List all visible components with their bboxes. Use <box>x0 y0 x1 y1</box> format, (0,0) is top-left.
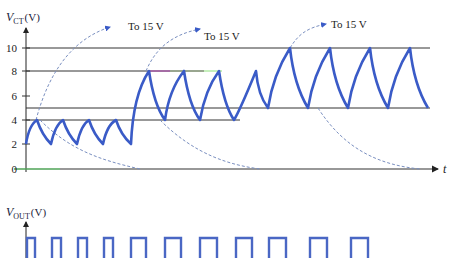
to-15v-label-1: To 15 V <box>128 20 164 32</box>
timing-diagram: VCT(V) t 0 2 4 6 8 10 To 15 V To 15 V <box>0 0 460 258</box>
svg-text:10: 10 <box>6 42 18 54</box>
svg-text:2: 2 <box>12 138 18 150</box>
to-15v-label-2: To 15 V <box>204 30 240 42</box>
to-15v-label-3: To 15 V <box>331 18 367 30</box>
t-axis-label: t <box>443 162 447 176</box>
svg-text:8: 8 <box>12 65 18 77</box>
vout-axis-label: VOUT(V) <box>6 205 46 221</box>
svg-text:4: 4 <box>12 114 18 126</box>
charge-asymptote-curves <box>36 24 420 169</box>
svg-text:0: 0 <box>12 163 18 175</box>
svg-text:6: 6 <box>12 90 18 102</box>
vct-axis-label: VCT(V) <box>6 10 40 26</box>
vout-pulse-train <box>27 238 368 258</box>
vct-trace <box>26 48 428 144</box>
